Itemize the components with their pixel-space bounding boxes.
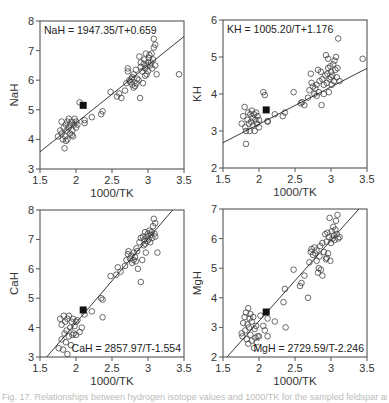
x-tick-label: 2 [256,173,262,185]
data-point [135,266,141,272]
y-tick-label: 5 [211,262,217,274]
highlight-marker [263,106,270,113]
panel-nah: 1.522.533.53456781000/TKNaHNaH = 1947.35… [8,15,192,199]
y-axis-label: KH [191,86,203,102]
regression-line [40,37,184,152]
y-tick-label: 2 [211,351,217,363]
x-tick-label: 1.5 [32,174,47,186]
panel-kh: 1.522.533.5234561000/TKKHKH = 1005.20/T+… [191,14,375,198]
data-point [62,146,68,152]
data-point [332,58,338,64]
data-point [140,80,146,86]
data-point [108,273,114,279]
panel-cah: 1.522.533.53456781000/TKCaHCaH = 2857.97… [8,197,192,387]
y-axis-label: CaH [8,272,20,295]
highlight-marker [80,306,87,313]
data-point [333,218,339,224]
data-point [137,54,143,60]
x-tick-label: 2.5 [104,174,119,186]
data-point [308,71,314,77]
data-point [154,72,160,78]
x-tick-label: 2.5 [287,173,302,185]
y-tick-label: 4 [211,292,217,304]
data-point [143,250,149,256]
y-tick-label: 4 [28,322,34,334]
y-tick-label: 5 [211,51,217,63]
figure-caption: Fig. 17. Relationships between hydrogen … [2,392,387,403]
data-point [328,75,334,81]
data-point [319,102,325,108]
panel-mgh: 1.522.533.52345671000/TKMgHMgH = 2729.59… [191,200,375,387]
data-point [89,114,95,120]
data-point [265,334,271,340]
x-tick-label: 2 [73,174,79,186]
y-tick-label: 6 [211,14,217,26]
data-point [282,286,288,292]
data-point [155,250,161,256]
data-point [327,215,333,221]
y-axis-label: NaH [8,83,20,106]
data-point [245,305,251,311]
x-tick-label: 3.5 [176,174,191,186]
data-point [100,315,106,321]
data-point [100,297,106,303]
x-tick-label: 3.5 [176,362,191,374]
data-point [138,279,144,285]
x-tick-label: 2.5 [287,362,302,374]
x-tick-label: 3 [145,174,151,186]
data-point [59,322,65,328]
plot-frame [40,21,184,169]
x-tick-label: 1.5 [215,173,230,185]
data-point [243,328,249,334]
y-tick-label: 3 [211,125,217,137]
data-point [65,351,71,357]
data-point [335,212,341,218]
data-point [302,273,308,279]
y-axis-label: MgH [191,271,203,295]
x-tick-label: 3 [328,362,334,374]
data-point [142,73,148,79]
regression-equation: KH = 1005.20/T+1.176 [227,23,333,35]
x-axis-label: 1000/TK [90,375,134,387]
data-point [242,104,248,110]
x-tick-label: 1.5 [32,362,47,374]
regression-equation: MgH = 2729.59/T-2.246 [253,342,364,354]
data-point [89,309,95,315]
data-point [79,325,85,331]
x-tick-label: 2 [256,362,262,374]
data-point [307,88,313,94]
x-axis-label: 1000/TK [273,375,317,387]
data-point [151,36,157,42]
regression-line [223,68,367,142]
y-tick-label: 6 [28,74,34,86]
y-tick-label: 7 [28,233,34,245]
data-point [291,89,297,95]
x-tick-label: 1.5 [215,362,230,374]
y-tick-label: 4 [211,88,217,100]
regression-line [223,200,367,362]
x-tick-label: 3.5 [359,173,374,185]
y-tick-label: 4 [28,133,34,145]
x-tick-label: 2.5 [104,362,119,374]
y-tick-label: 5 [28,104,34,116]
regression-line [40,197,184,365]
x-axis-label: 1000/TK [90,187,134,199]
data-point [320,273,326,279]
y-tick-label: 3 [28,163,34,175]
y-tick-label: 3 [211,321,217,333]
x-tick-label: 3 [145,362,151,374]
data-points [239,212,343,351]
data-point [305,295,311,301]
data-point [239,121,245,127]
data-point [63,340,69,346]
data-point [317,254,323,260]
data-point [137,95,143,101]
y-tick-label: 8 [28,204,34,216]
x-tick-label: 2 [73,362,79,374]
y-tick-label: 6 [211,233,217,245]
data-point [283,325,289,331]
figure-4-panel-scatter: 1.522.533.53456781000/TKNaHNaH = 1947.35… [0,0,389,403]
y-tick-label: 7 [28,45,34,57]
highlight-marker [80,102,87,109]
data-points [239,36,366,147]
